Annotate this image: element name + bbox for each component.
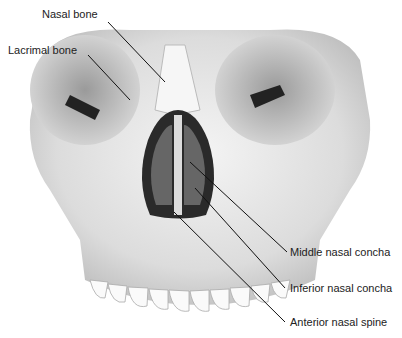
label-anterior-nasal-spine: Anterior nasal spine	[290, 316, 387, 328]
nasal-septum	[174, 115, 182, 215]
label-nasal-bone: Nasal bone	[42, 8, 98, 20]
skull-diagram: Nasal bone Lacrimal bone Middle nasal co…	[0, 0, 402, 338]
label-middle-nasal-concha: Middle nasal concha	[290, 246, 390, 258]
label-inferior-nasal-concha: Inferior nasal concha	[290, 282, 392, 294]
label-lacrimal-bone: Lacrimal bone	[8, 44, 77, 56]
